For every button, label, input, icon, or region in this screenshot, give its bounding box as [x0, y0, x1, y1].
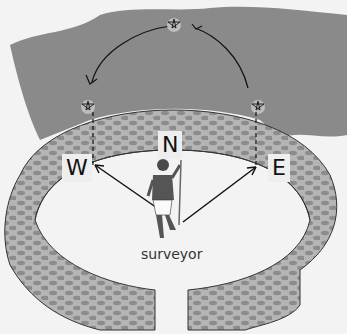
- star-zenith: [167, 18, 181, 32]
- sightline-east: [183, 167, 256, 222]
- east-label: E: [268, 154, 290, 182]
- west-label: W: [62, 154, 92, 182]
- star-east-rising: [251, 100, 265, 114]
- north-label: N: [158, 131, 182, 159]
- surveyor-diagram: N W E surveyor: [0, 0, 347, 334]
- surveyor-caption: surveyor: [141, 246, 202, 262]
- diagram-drawing: [0, 0, 347, 334]
- star-west-setting: [81, 100, 95, 114]
- surveyor-figure: [148, 159, 181, 238]
